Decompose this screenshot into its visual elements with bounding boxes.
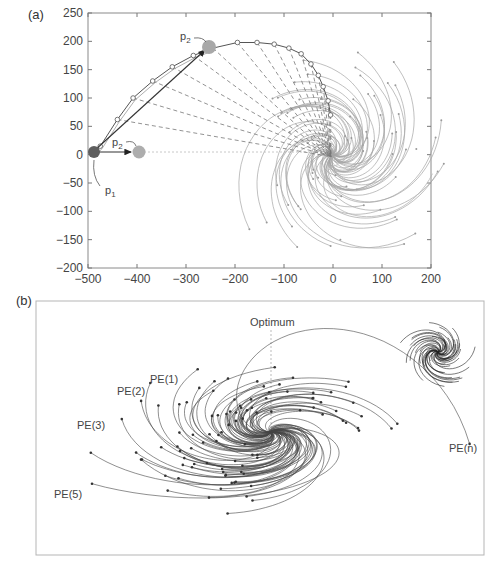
y-tick-label: −200 bbox=[56, 261, 83, 275]
panel-b: (b) Optimum PE(1) PE(2) PE(3) PE(5) PE(n… bbox=[16, 293, 484, 555]
p2-rotated-callout bbox=[194, 38, 206, 42]
x-tick-label: −400 bbox=[123, 272, 150, 286]
x-tick-label: −200 bbox=[221, 272, 248, 286]
y-tick-label: 50 bbox=[70, 119, 84, 133]
pe-label-3: PE(3) bbox=[77, 419, 105, 431]
rotation-arc bbox=[94, 43, 331, 154]
panel-b-label: (b) bbox=[16, 293, 32, 308]
pe-label-n: PE(n) bbox=[449, 442, 477, 454]
p1-label: p1 bbox=[105, 184, 116, 199]
x-tick-label: 200 bbox=[421, 272, 441, 286]
y-tick-label: −150 bbox=[56, 233, 83, 247]
x-tick-label: 0 bbox=[330, 272, 337, 286]
x-tick-label: −100 bbox=[270, 272, 297, 286]
inset-spiral-cluster bbox=[400, 323, 475, 387]
plot-a-frame bbox=[88, 13, 431, 268]
y-tick-label: −100 bbox=[56, 204, 83, 218]
rotated-vector-arrow bbox=[94, 50, 205, 151]
panel-a: (a) −500−400−300−200−1000100200 −200−150… bbox=[28, 6, 445, 286]
y-tick-label: −50 bbox=[63, 176, 84, 190]
pe-label-2: PE(2) bbox=[117, 385, 145, 397]
pe-label-1: PE(1) bbox=[150, 373, 178, 385]
p2-initial-marker bbox=[133, 146, 146, 159]
optimum-label: Optimum bbox=[250, 316, 295, 328]
p2-rotated-marker bbox=[202, 40, 216, 54]
y-tick-label: 0 bbox=[76, 148, 83, 162]
p2-rotated-label: p2 bbox=[180, 30, 191, 45]
pe-trajectories bbox=[91, 329, 470, 514]
p1-marker bbox=[88, 146, 100, 158]
y-tick-label: 200 bbox=[63, 34, 83, 48]
x-tick-label: 100 bbox=[372, 272, 392, 286]
particle-trajectories bbox=[239, 52, 445, 249]
panel-a-label: (a) bbox=[28, 7, 44, 22]
p2-initial-callout bbox=[126, 142, 136, 147]
figure-canvas: (a) −500−400−300−200−1000100200 −200−150… bbox=[0, 0, 499, 569]
p2-initial-label: p2 bbox=[112, 136, 123, 151]
y-tick-label: 250 bbox=[63, 6, 83, 20]
y-tick-label: 150 bbox=[63, 63, 83, 77]
x-tick-label: −300 bbox=[172, 272, 199, 286]
y-tick-label: 100 bbox=[63, 91, 83, 105]
p1-callout bbox=[94, 160, 100, 186]
pe-label-5: PE(5) bbox=[54, 488, 82, 500]
